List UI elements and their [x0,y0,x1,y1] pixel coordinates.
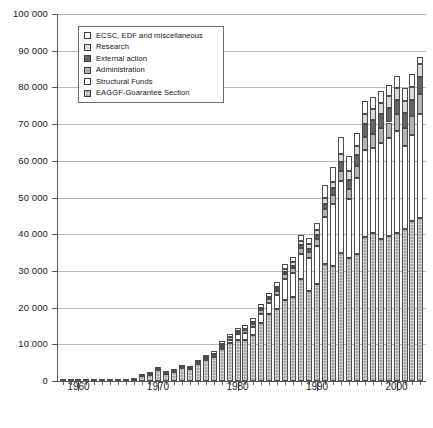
bar-segment-eaggf [203,360,209,381]
bar-segment-ecsc [250,318,256,322]
x-axis-tick-label: 1980 [226,381,248,392]
x-axis-minor-tick [110,382,111,385]
bar-segment-research [131,378,137,380]
bar [417,57,423,381]
legend-swatch-icon-research [84,44,91,51]
bar-segment-eaggf [211,357,217,381]
y-axis-tick-label: 100 000 [0,8,48,19]
y-axis-tick-label: 80 000 [0,81,48,92]
bar-segment-admin [227,337,233,339]
bar-segment-research [91,379,97,381]
bar-segment-admin [362,137,368,150]
bar [378,91,384,381]
bar-segment-ecsc [402,88,408,101]
x-axis-minor-tick [253,382,254,385]
bar-segment-admin [394,114,400,131]
bar-segment-ecsc [409,74,415,87]
bar [107,380,113,381]
bar-segment-eaggf [362,237,368,381]
bar-segment-extern [290,266,296,268]
bar-segment-ecsc [219,341,225,344]
legend-swatch-icon-admin [84,67,91,74]
x-axis-minor-tick [349,382,350,385]
gridline [58,14,426,15]
legend-item-eaggf: EAGGF-Guarantee Section [84,88,219,100]
bar-segment-admin [282,274,288,279]
bar-segment-ecsc [187,366,193,368]
bar-segment-ecsc [362,101,368,114]
bar-segment-struct [314,246,320,284]
bar-segment-ecsc [155,367,161,369]
bar-segment-eaggf [266,314,272,381]
legend-swatch-icon-ecsc [84,32,91,39]
bar-segment-extern [394,100,400,114]
bar [338,137,344,381]
x-axis-minor-tick [277,382,278,385]
x-axis-tick-label: 1990 [306,381,328,392]
bar-segment-eaggf [338,253,344,381]
bar-segment-ecsc [370,97,376,109]
bar-segment-admin [386,123,392,139]
x-axis-minor-tick [381,382,382,385]
bar-segment-admin [60,379,66,381]
bar-segment-struct [235,334,241,339]
bar-segment-struct [306,258,312,291]
bar-segment-research [370,109,376,120]
bar-segment-struct [322,217,328,265]
bar [409,74,415,381]
bar-segment-admin [314,239,320,246]
y-axis-tick [52,271,57,272]
x-axis-minor-tick [373,382,374,385]
bar-segment-eaggf [242,340,248,381]
bar-segment-eaggf [187,369,193,381]
bar-segment-struct [227,340,233,343]
legend-item-research: Research [84,42,219,54]
bar-segment-extern [298,245,304,248]
bar-segment-struct [219,347,225,349]
y-axis-tick-label: 60 000 [0,155,48,166]
bar-segment-struct [274,295,280,309]
legend-item-extern: External action [84,53,219,65]
bar-segment-research [314,230,320,235]
bar-segment-eaggf [163,374,169,381]
bar-segment-research [362,114,368,124]
bar-segment-extern [362,124,368,137]
bar-segment-eaggf [346,258,352,381]
bar-segment-eaggf [139,376,145,381]
bar [139,375,145,381]
bar-segment-extern [386,108,392,123]
bar [314,223,320,381]
y-axis-tick [52,87,57,88]
bar-segment-research [409,87,415,99]
bar-segment-ecsc [211,351,217,354]
x-axis-tick-label: 2000 [385,381,407,392]
y-axis-tick-label: 50 000 [0,192,48,203]
bar [99,380,105,381]
bar-segment-eaggf [322,264,328,381]
bar-segment-admin [354,166,360,178]
x-axis-minor-tick [182,382,183,385]
bar-segment-eaggf [378,239,384,381]
bar-segment-research [346,171,352,180]
bar-segment-struct [417,114,423,219]
bar-segment-research [394,88,400,100]
bar-segment-struct [282,279,288,300]
bar-segment-ecsc [163,371,169,373]
bar-segment-ecsc [179,365,185,367]
bar-segment-extern [417,77,423,94]
bar-segment-ecsc [338,137,344,155]
x-axis-minor-tick [222,382,223,385]
bar-segment-struct [354,178,360,254]
bar-segment-ecsc [282,264,288,269]
bar-segment-admin [330,195,336,204]
bar-segment-research [378,103,384,114]
bar-segment-eaggf [274,309,280,381]
bar-segment-struct [346,199,352,258]
bar-segment-extern [330,188,336,195]
bar-segment-struct [370,148,376,233]
bar [298,235,304,381]
y-axis-tick-label: 40 000 [0,228,48,239]
bar [290,257,296,381]
x-axis-minor-tick [357,382,358,385]
bar-segment-eaggf [219,349,225,381]
